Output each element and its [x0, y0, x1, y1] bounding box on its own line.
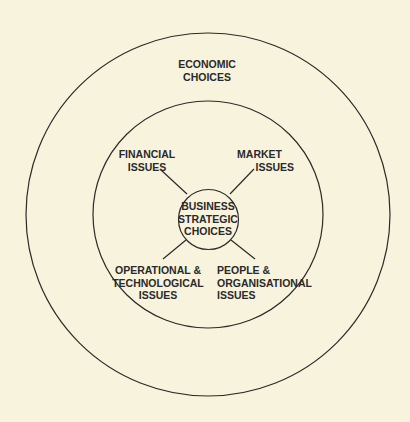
label-financial-issues: FINANCIAL ISSUES — [112, 148, 182, 173]
label-line: OPERATIONAL & — [112, 264, 204, 277]
label-business-strategic-choices: BUSINESS STRATEGIC CHOICES — [168, 200, 248, 238]
spoke-people — [231, 240, 255, 259]
label-line: ISSUES — [112, 289, 204, 302]
label-line: FINANCIAL — [112, 148, 182, 161]
spoke-financial — [161, 170, 187, 194]
label-line: MARKET — [222, 148, 294, 161]
label-line: BUSINESS — [168, 200, 248, 213]
spoke-operational — [163, 240, 186, 259]
label-line: ISSUES — [217, 289, 313, 302]
label-line: CHOICES — [167, 71, 247, 84]
label-people-organisational-issues: PEOPLE & ORGANISATIONAL ISSUES — [217, 264, 313, 302]
label-line: ECONOMIC — [167, 58, 247, 71]
label-line: ORGANISATIONAL — [217, 277, 313, 290]
label-operational-technological-issues: OPERATIONAL & TECHNOLOGICAL ISSUES — [112, 264, 204, 302]
label-line: ISSUES — [222, 161, 294, 174]
label-economic-choices: ECONOMIC CHOICES — [167, 58, 247, 83]
label-market-issues: MARKET ISSUES — [222, 148, 294, 173]
label-line: CHOICES — [168, 225, 248, 238]
label-line: PEOPLE & — [217, 264, 313, 277]
label-line: TECHNOLOGICAL — [112, 277, 204, 290]
label-line: STRATEGIC — [168, 213, 248, 226]
label-line: ISSUES — [112, 161, 182, 174]
